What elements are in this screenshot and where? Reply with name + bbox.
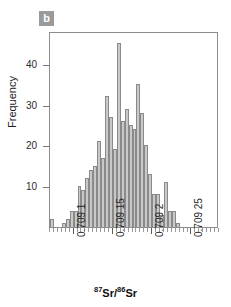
x-axis-minor-tick [175, 228, 176, 232]
y-axis-tick [43, 146, 50, 147]
x-axis-minor-tick [92, 228, 93, 232]
y-axis-tick-label: 40 [7, 60, 37, 70]
x-axis-minor-tick [65, 228, 66, 232]
histogram-figure: b Frequency 102030400.709 10.709 150.709… [0, 0, 231, 307]
x-axis-minor-tick [143, 228, 144, 232]
y-axis-tick-label: 10 [7, 182, 37, 192]
x-axis-minor-tick [53, 228, 54, 232]
x-axis-tick [151, 228, 152, 234]
x-axis-minor-tick [139, 228, 140, 232]
x-axis-minor-tick [49, 228, 50, 232]
x-axis-minor-tick [171, 228, 172, 232]
x-axis-tick-label: 0.709 15 [116, 198, 126, 237]
x-axis-minor-tick [128, 228, 129, 232]
x-axis-tick-label: 0.709 2 [155, 204, 165, 237]
x-axis-minor-tick [57, 228, 58, 232]
x-axis-tick [190, 228, 191, 234]
x-axis-minor-tick [100, 228, 101, 232]
x-axis-minor-tick [183, 228, 184, 232]
x-axis-minor-tick [147, 228, 148, 232]
x-axis-minor-tick [96, 228, 97, 232]
x-axis-minor-tick [132, 228, 133, 232]
x-axis-minor-tick [88, 228, 89, 232]
x-axis-tick-label: 0.709 1 [77, 204, 87, 237]
x-axis-minor-tick [104, 228, 105, 232]
x-axis-tick-label: 0.709 25 [194, 198, 204, 237]
x-axis-minor-tick [69, 228, 70, 232]
x-axis-title-base-sr1: Sr/ [102, 287, 117, 299]
x-axis-minor-tick [206, 228, 207, 232]
plot-area [50, 33, 217, 227]
y-axis-tick [43, 187, 50, 188]
x-axis-minor-tick [179, 228, 180, 232]
y-axis-tick-label: 20 [7, 141, 37, 151]
y-axis-tick [43, 65, 50, 66]
x-axis-minor-tick [135, 228, 136, 232]
x-axis-minor-tick [167, 228, 168, 232]
y-axis-tick-label: 30 [7, 101, 37, 111]
x-axis-minor-tick [218, 228, 219, 232]
x-axis-minor-tick [108, 228, 109, 232]
y-axis: Frequency [0, 0, 49, 307]
x-axis-minor-tick [187, 228, 188, 232]
x-axis-minor-tick [214, 228, 215, 232]
x-axis-title: 87Sr/86Sr [0, 287, 231, 299]
histogram-bar [50, 219, 54, 227]
x-axis-tick [73, 228, 74, 234]
x-axis-minor-tick [210, 228, 211, 232]
x-axis-title-base-sr2: Sr [125, 287, 137, 299]
x-axis-minor-tick [61, 228, 62, 232]
histogram-bar [176, 223, 180, 227]
x-axis-tick [112, 228, 113, 234]
y-axis-tick [43, 106, 50, 107]
